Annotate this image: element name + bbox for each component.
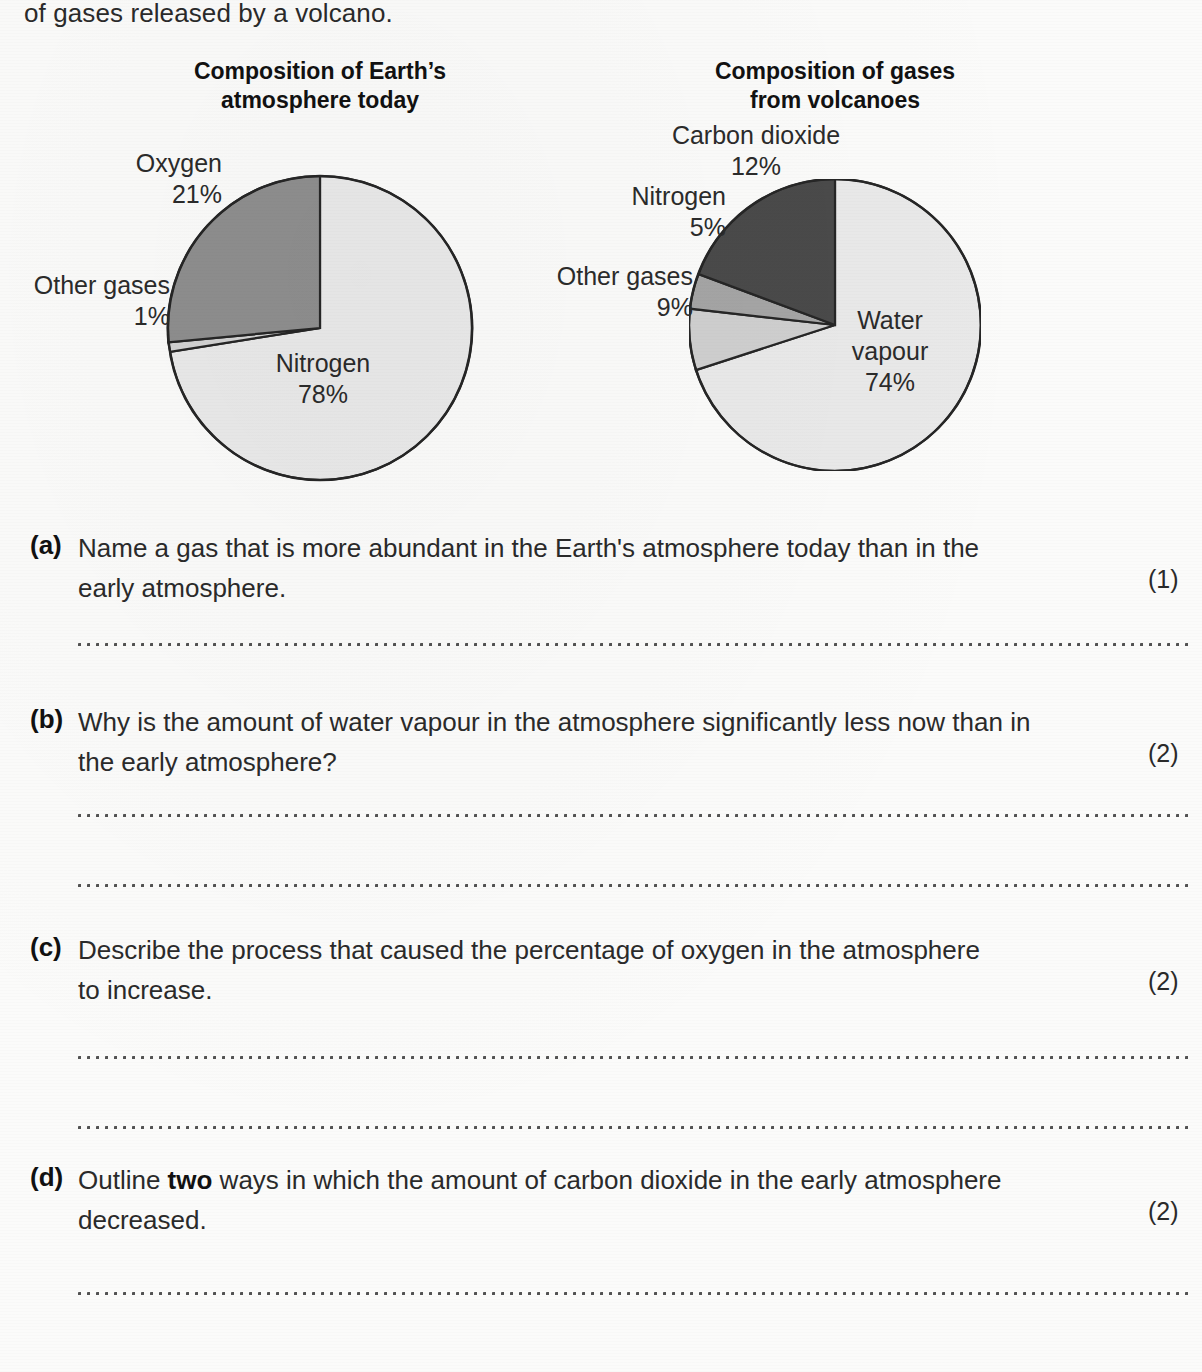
pie-label-other-gases-value: 1% — [0, 301, 170, 332]
pie-label-nitrogen-value: 5% — [560, 212, 726, 243]
question-a-text-line2: early atmosphere. — [78, 568, 979, 608]
chart-title-line1: Composition of gases — [670, 57, 1000, 86]
question-c: (c) Describe the process that caused the… — [30, 930, 1150, 1010]
pie-label-nitrogen-name: Nitrogen — [560, 181, 726, 212]
pie-chart-earth-atmosphere — [160, 168, 480, 488]
answer-line-b-2[interactable] — [78, 884, 1188, 890]
question-d: (d) Outline two ways in which the amount… — [30, 1160, 1160, 1240]
exam-question-page: of gases released by a volcano. Composit… — [0, 0, 1202, 1372]
pie-label-carbon-dioxide-value: 12% — [630, 151, 882, 182]
question-b-text-line1: Why is the amount of water vapour in the… — [78, 702, 1030, 742]
pie-label-nitrogen-name: Nitrogen — [238, 348, 408, 379]
question-d-text-after-bold: ways in which the amount of carbon dioxi… — [212, 1165, 1001, 1195]
question-d-marks: (2) — [1148, 1195, 1179, 1227]
question-d-text-line2: decreased. — [78, 1200, 1001, 1240]
chart-title-line2: from volcanoes — [670, 86, 1000, 115]
question-b-text-line2: the early atmosphere? — [78, 742, 1030, 782]
question-c-marks: (2) — [1148, 965, 1179, 997]
chart-title-line2: atmosphere today — [150, 86, 490, 115]
pie-label-oxygen-value: 21% — [60, 179, 222, 210]
question-b-marks: (2) — [1148, 737, 1179, 769]
pie-label-other-gases-name: Other gases — [515, 261, 693, 292]
pie-label-oxygen-name: Oxygen — [60, 148, 222, 179]
question-d-bold-word: two — [168, 1165, 213, 1195]
question-d-text-line1: Outline two ways in which the amount of … — [78, 1160, 1001, 1200]
answer-line-c-1[interactable] — [78, 1056, 1188, 1062]
question-d-text-before-bold: Outline — [78, 1165, 168, 1195]
question-stem-text: of gases released by a volcano. — [24, 0, 724, 30]
question-b: (b) Why is the amount of water vapour in… — [30, 702, 1150, 782]
answer-line-a-1[interactable] — [78, 643, 1188, 649]
pie-label-carbon-dioxide-name: Carbon dioxide — [630, 120, 882, 151]
pie-label-water-vapour-name-line2: vapour — [800, 336, 980, 367]
pie-label-water-vapour-value: 74% — [800, 367, 980, 398]
pie-label-water-vapour-name-line1: Water — [800, 305, 980, 336]
question-d-letter: (d) — [30, 1160, 78, 1194]
question-a-letter: (a) — [30, 528, 78, 562]
question-c-text-line2: to increase. — [78, 970, 980, 1010]
chart-title-line1: Composition of Earth’s — [150, 57, 490, 86]
answer-line-b-1[interactable] — [78, 814, 1188, 820]
question-c-text-line1: Describe the process that caused the per… — [78, 930, 980, 970]
question-c-letter: (c) — [30, 930, 78, 964]
question-a-text-line1: Name a gas that is more abundant in the … — [78, 528, 979, 568]
question-a-marks: (1) — [1148, 563, 1179, 595]
pie-label-other-gases-value: 9% — [515, 292, 693, 323]
question-b-letter: (b) — [30, 702, 78, 736]
question-a: (a) Name a gas that is more abundant in … — [30, 528, 1150, 608]
pie-label-nitrogen-value: 78% — [238, 379, 408, 410]
pie-label-other-gases-name: Other gases — [0, 270, 170, 301]
answer-line-c-2[interactable] — [78, 1126, 1188, 1132]
answer-line-d-1[interactable] — [78, 1292, 1188, 1298]
